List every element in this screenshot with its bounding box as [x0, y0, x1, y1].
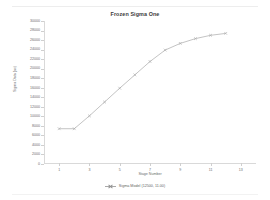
data-point-marker [88, 114, 91, 117]
x-tick-label: 1 [58, 168, 60, 173]
chart-legend: Sigma Model (12500, 11.00) [0, 183, 270, 189]
data-point-marker [133, 73, 136, 76]
y-tick-label: 20000 [30, 65, 40, 71]
y-tick-label: 12000 [30, 104, 40, 110]
chart-container: Frozen Sigma One Sigma Data (ac) Stage N… [0, 0, 270, 200]
figure-bottom-border [12, 194, 258, 195]
y-tick-mark [41, 164, 44, 165]
y-axis-title: Sigma Data (ac) [13, 66, 18, 92]
legend-label: Sigma Model (12500, 11.00) [119, 183, 165, 189]
y-tick-label: 14000 [30, 94, 40, 100]
y-tick-label: 4000 [32, 142, 40, 148]
x-tick-label: 13 [239, 168, 243, 173]
x-tick-label: 5 [119, 168, 121, 173]
y-tick-label: 22000 [30, 56, 40, 62]
y-tick-label: 26000 [30, 37, 40, 43]
data-point-marker [118, 87, 121, 90]
data-point-marker [149, 60, 152, 63]
chart-title: Frozen Sigma One [0, 11, 270, 18]
y-tick-label: 8000 [32, 123, 40, 129]
y-tick-label: 16000 [30, 85, 40, 91]
data-point-marker [103, 101, 106, 104]
series-sigma-model [44, 21, 256, 164]
y-tick-label: 24000 [30, 46, 40, 52]
y-tick-label: 18000 [30, 75, 40, 81]
y-tick-label: 0 [38, 161, 40, 167]
x-tick-label: 9 [179, 168, 181, 173]
plot-area: 0200040006000800010000120001400016000180… [44, 21, 256, 164]
y-tick-label: 6000 [32, 132, 40, 138]
series-line [59, 33, 226, 128]
y-tick-label: 30000 [30, 18, 40, 24]
y-tick-label: 2000 [32, 151, 40, 157]
y-tick-label: 10000 [30, 113, 40, 119]
x-tick-label: 3 [88, 168, 90, 173]
y-tick-label: 28000 [30, 27, 40, 33]
data-point-marker [164, 49, 167, 52]
legend-marker-icon [105, 184, 116, 189]
figure-top-border [12, 6, 258, 7]
x-tick-label: 11 [209, 168, 213, 173]
x-tick-label: 7 [149, 168, 151, 173]
